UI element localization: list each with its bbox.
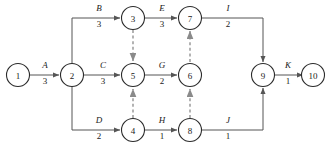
activity-G-name: G bbox=[159, 60, 166, 70]
activity-A-name: A bbox=[41, 60, 48, 70]
node-10-label: 10 bbox=[309, 71, 319, 81]
node-6[interactable]: 6 bbox=[179, 64, 202, 87]
node-9[interactable]: 9 bbox=[252, 64, 275, 87]
node-7-label: 7 bbox=[188, 14, 193, 24]
edge-J-8-to-9 bbox=[202, 88, 263, 130]
edge-I-7-to-9 bbox=[202, 18, 263, 62]
node-5[interactable]: 5 bbox=[122, 64, 145, 87]
node-8[interactable]: 8 bbox=[179, 119, 202, 142]
activity-G-duration: 2 bbox=[160, 76, 165, 86]
node-8-label: 8 bbox=[188, 126, 193, 136]
node-9-label: 9 bbox=[261, 71, 266, 81]
node-5-label: 5 bbox=[131, 71, 136, 81]
node-1-label: 1 bbox=[16, 71, 21, 81]
nodes-group: 1 2 3 4 5 6 7 bbox=[7, 7, 325, 142]
activity-I-duration: 2 bbox=[226, 19, 231, 29]
node-2[interactable]: 2 bbox=[61, 64, 84, 87]
network-diagram-svg: 1 2 3 4 5 6 7 bbox=[0, 0, 326, 150]
activity-D-name: D bbox=[95, 115, 103, 125]
activity-H-duration: 1 bbox=[160, 131, 165, 141]
activity-J-duration: 1 bbox=[226, 131, 231, 141]
node-3-label: 3 bbox=[131, 14, 136, 24]
node-7[interactable]: 7 bbox=[179, 7, 202, 30]
node-3[interactable]: 3 bbox=[122, 7, 145, 30]
activity-C-name: C bbox=[100, 60, 107, 70]
activity-A-duration: 3 bbox=[43, 76, 48, 86]
activity-K-name: K bbox=[284, 60, 292, 70]
activity-H-name: H bbox=[158, 115, 166, 125]
node-2-label: 2 bbox=[70, 71, 75, 81]
activity-E-name: E bbox=[158, 3, 165, 13]
network-diagram-canvas: 1 2 3 4 5 6 7 bbox=[0, 0, 326, 150]
activity-K-duration: 1 bbox=[286, 76, 291, 86]
node-6-label: 6 bbox=[188, 71, 193, 81]
activity-E-duration: 3 bbox=[160, 19, 165, 29]
activity-D-duration: 2 bbox=[97, 131, 102, 141]
node-4[interactable]: 4 bbox=[122, 119, 145, 142]
node-1[interactable]: 1 bbox=[7, 64, 30, 87]
node-4-label: 4 bbox=[131, 126, 136, 136]
activity-J-name: J bbox=[226, 115, 231, 125]
activity-B-name: B bbox=[96, 3, 102, 13]
node-10[interactable]: 10 bbox=[302, 64, 325, 87]
activity-C-duration: 3 bbox=[101, 76, 106, 86]
activity-I-name: I bbox=[226, 3, 231, 13]
activity-B-duration: 3 bbox=[97, 19, 102, 29]
